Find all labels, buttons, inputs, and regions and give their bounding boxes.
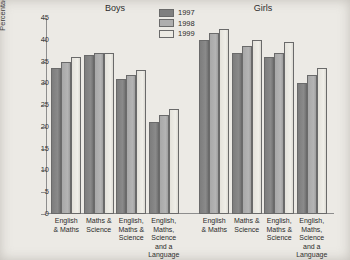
bar-group	[263, 18, 296, 214]
bar-1998-girls	[274, 53, 284, 214]
bar-1999-girls	[317, 68, 327, 214]
bar-group	[83, 18, 116, 214]
legend-label-1999: 1999	[178, 29, 195, 38]
bar-group	[148, 18, 181, 214]
bar-group	[198, 18, 231, 214]
legend-label-1998: 1998	[178, 19, 195, 28]
y-tick-label-10: 10	[33, 165, 49, 174]
chart-legend: 1997 1998 1999	[159, 8, 195, 38]
legend-item-1998: 1998	[159, 19, 195, 28]
panel-title-girls: Girls	[198, 3, 328, 13]
y-axis-title: Percentage of 15 year old pupils	[0, 0, 7, 62]
y-tick-label-0: 0	[33, 209, 49, 218]
y-axis-line	[46, 18, 47, 214]
y-tick-label-45: 45	[33, 13, 49, 22]
bar-1997-girls	[264, 57, 274, 214]
y-tick-label-40: 40	[33, 35, 49, 44]
bar-1997-boys	[149, 122, 159, 214]
bar-1997-boys	[116, 79, 126, 214]
y-tick-label-25: 25	[33, 100, 49, 109]
y-tick-label-35: 35	[33, 57, 49, 66]
bar-1999-boys	[136, 70, 146, 214]
bar-1997-boys	[51, 68, 61, 214]
bar-1998-girls	[307, 75, 317, 214]
bar-1997-boys	[84, 55, 94, 214]
bar-1998-boys	[94, 53, 104, 214]
bar-1999-boys	[169, 109, 179, 214]
legend-swatch-icon-1999	[159, 30, 174, 38]
y-tick-label-20: 20	[33, 122, 49, 131]
y-tick-label-15: 15	[33, 144, 49, 153]
panel-boys: BoysEnglish& MathsMaths &ScienceEnglish,…	[50, 18, 180, 214]
legend-item-1997: 1997	[159, 8, 195, 17]
y-axis-title-wrap: Percentage of 15 year old pupils	[0, 0, 10, 56]
bar-1998-boys	[159, 115, 169, 214]
bar-group	[296, 18, 329, 214]
legend-label-1997: 1997	[178, 8, 195, 17]
chart-figure: Percentage of 15 year old pupils 1997 19…	[0, 0, 350, 260]
bar-1999-boys	[71, 57, 81, 214]
y-tick-label-30: 30	[33, 78, 49, 87]
bar-1999-girls	[252, 40, 262, 214]
bar-1998-girls	[209, 33, 219, 214]
bar-1998-boys	[61, 62, 71, 214]
category-label: English,Maths,Scienceand aLanguage	[282, 217, 342, 260]
bar-1997-girls	[297, 83, 307, 214]
legend-swatch-icon-1998	[159, 19, 174, 27]
bar-1999-girls	[219, 29, 229, 214]
bar-group	[50, 18, 83, 214]
bar-1997-girls	[199, 40, 209, 214]
bar-1997-girls	[232, 53, 242, 214]
plot-area: BoysEnglish& MathsMaths &ScienceEnglish,…	[46, 18, 334, 214]
panel-girls: GirlsEnglish& MathsMaths &ScienceEnglish…	[198, 18, 328, 214]
y-tick-label-5: 5	[33, 187, 49, 196]
bar-1999-girls	[284, 42, 294, 214]
bar-1998-boys	[126, 75, 136, 214]
bar-1999-boys	[104, 53, 114, 214]
bar-1998-girls	[242, 46, 252, 214]
bar-group	[115, 18, 148, 214]
legend-swatch-icon-1997	[159, 9, 174, 17]
bar-group	[231, 18, 264, 214]
legend-item-1999: 1999	[159, 29, 195, 38]
